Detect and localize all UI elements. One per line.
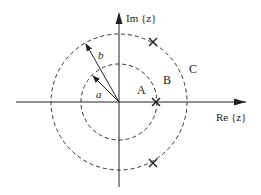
vector-b-label: b [98, 49, 104, 61]
z-plane-diagram: Im {z} Re {z} b a A B C [0, 0, 261, 195]
pole-lower-icon [149, 159, 157, 167]
real-axis-arrow-icon [234, 99, 246, 106]
vector-a-label: a [96, 88, 102, 100]
real-axis-label: Re {z} [216, 111, 246, 123]
imag-axis-label: Im {z} [126, 12, 156, 24]
region-c-label: C [189, 62, 197, 76]
imag-axis-arrow-icon [116, 12, 123, 24]
region-b-label: B [163, 73, 171, 87]
region-a-label: A [137, 83, 146, 97]
